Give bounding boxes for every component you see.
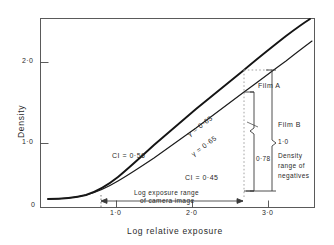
- y-axis-title: Density: [17, 105, 27, 138]
- figure-chart-density-vs-log-exposure: 0 2·0 1·0 Density 1·0 2·0 3·0 Log relati…: [0, 0, 334, 245]
- density-range-caption-line-1: Density: [278, 152, 302, 159]
- density-range-value-film-a: 1·0: [278, 138, 289, 145]
- x-tick-label-1-0: 1·0: [110, 209, 121, 217]
- x-axis-title: Log relative exposure: [127, 227, 223, 237]
- exposure-range-caption-line-1: Log exposure range: [134, 189, 199, 196]
- density-range-caption-line-3: negatives: [278, 172, 309, 179]
- density-range-caption-line-2: range of: [278, 162, 305, 169]
- density-range-value-film-b: 0·78: [256, 155, 271, 162]
- x-tick-label-2-0: 2·0: [186, 209, 197, 217]
- y-tick-label-1-0: 1·0: [22, 138, 33, 146]
- axis-origin-label: 0: [31, 201, 35, 209]
- series-label-film-b: Film B: [278, 121, 301, 129]
- y-tick-label-2-0: 2·0: [22, 57, 33, 65]
- contrast-index-label-film-a: CI = 0·56: [112, 152, 146, 160]
- series-label-film-a: Film A: [258, 82, 280, 90]
- contrast-index-label-film-b: CI = 0·45: [185, 174, 219, 182]
- x-tick-label-3-0: 3·0: [262, 209, 273, 217]
- exposure-range-caption-line-2: of camera image: [140, 197, 194, 204]
